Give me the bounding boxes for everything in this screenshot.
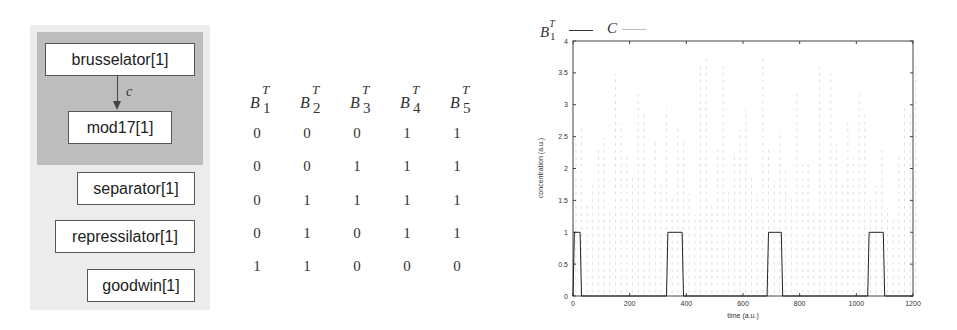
axis-ticks: 02004006008001000120000.511.522.533.54 bbox=[558, 38, 921, 308]
y-tick-label: 2.5 bbox=[558, 133, 568, 140]
x-axis-label: time (a.u.) bbox=[727, 312, 759, 320]
y-tick-label: 1 bbox=[564, 229, 568, 236]
plot-frame bbox=[573, 41, 913, 296]
x-tick-label: 400 bbox=[680, 300, 692, 307]
y-tick-label: 3 bbox=[564, 101, 568, 108]
y-tick-label: 3.5 bbox=[558, 69, 568, 76]
x-tick-label: 0 bbox=[571, 300, 575, 307]
x-tick-label: 800 bbox=[794, 300, 806, 307]
y-tick-label: 1.5 bbox=[558, 197, 568, 204]
x-tick-label: 200 bbox=[624, 300, 636, 307]
y-tick-label: 0 bbox=[564, 293, 568, 300]
x-tick-label: 600 bbox=[737, 300, 749, 307]
concentration-chart: 02004006008001000120000.511.522.533.54 t… bbox=[0, 0, 957, 330]
x-tick-label: 1200 bbox=[905, 300, 921, 307]
y-axis-label: concentration (a.u.) bbox=[537, 138, 545, 198]
series-c bbox=[576, 56, 916, 293]
x-tick-label: 1000 bbox=[849, 300, 865, 307]
y-tick-label: 4 bbox=[564, 38, 568, 45]
y-tick-label: 0.5 bbox=[558, 261, 568, 268]
y-tick-label: 2 bbox=[564, 165, 568, 172]
series-b1 bbox=[573, 232, 913, 296]
